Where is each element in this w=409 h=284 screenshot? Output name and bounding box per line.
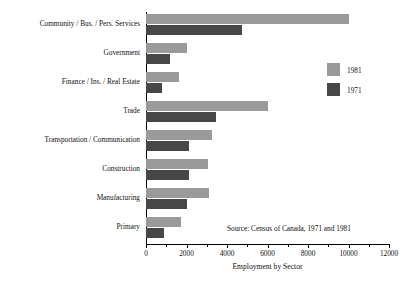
category-label: Primary bbox=[116, 222, 140, 231]
x-tick bbox=[268, 244, 269, 248]
employment-by-sector-chart: Community / Bus. / Pers. ServicesGovernm… bbox=[0, 0, 409, 284]
x-minor-tick bbox=[166, 244, 167, 247]
x-minor-tick bbox=[328, 244, 329, 247]
bar-group bbox=[146, 128, 389, 157]
x-axis-ticks: 020004000600080001000012000 bbox=[146, 244, 389, 262]
bar-1971[interactable] bbox=[146, 228, 164, 238]
x-tick bbox=[349, 244, 350, 248]
bar-group bbox=[146, 12, 389, 41]
bar-1981[interactable] bbox=[146, 130, 212, 140]
x-tick bbox=[146, 244, 147, 248]
bar-1981[interactable] bbox=[146, 217, 181, 227]
x-tick-label: 8000 bbox=[301, 249, 316, 258]
bar-1981[interactable] bbox=[146, 188, 209, 198]
category-label: Transportation / Communication bbox=[45, 135, 140, 144]
x-minor-tick bbox=[247, 244, 248, 247]
bar-group bbox=[146, 99, 389, 128]
plot-area bbox=[146, 12, 389, 244]
source-note: Source: Census of Canada, 1971 and 1981 bbox=[227, 224, 351, 233]
bar-1981[interactable] bbox=[146, 72, 179, 82]
bar-1971[interactable] bbox=[146, 54, 170, 64]
x-tick-label: 2000 bbox=[179, 249, 194, 258]
legend-swatch-1971 bbox=[327, 83, 340, 96]
x-axis-title: Employment by Sector bbox=[146, 262, 389, 272]
bar-group bbox=[146, 157, 389, 186]
bar-1971[interactable] bbox=[146, 170, 189, 180]
x-minor-tick bbox=[369, 244, 370, 247]
x-tick bbox=[308, 244, 309, 248]
x-minor-tick bbox=[288, 244, 289, 247]
x-tick bbox=[389, 244, 390, 248]
bar-1971[interactable] bbox=[146, 199, 187, 209]
category-label: Trade bbox=[123, 106, 140, 115]
legend-item-1981[interactable]: 1981 bbox=[327, 63, 397, 83]
x-tick-label: 0 bbox=[144, 249, 148, 258]
x-minor-tick bbox=[207, 244, 208, 247]
bar-1971[interactable] bbox=[146, 112, 216, 122]
bar-group bbox=[146, 186, 389, 215]
legend-swatch-1981 bbox=[327, 63, 340, 76]
legend-item-1971[interactable]: 1971 bbox=[327, 83, 397, 103]
category-label: Finance / Ins. / Real Estate bbox=[62, 77, 140, 86]
bar-1971[interactable] bbox=[146, 25, 242, 35]
x-tick bbox=[187, 244, 188, 248]
bar-1981[interactable] bbox=[146, 159, 208, 169]
x-tick-label: 6000 bbox=[260, 249, 275, 258]
x-tick bbox=[227, 244, 228, 248]
bar-1981[interactable] bbox=[146, 43, 187, 53]
legend: 1981 1971 bbox=[327, 63, 397, 103]
category-label: Government bbox=[104, 48, 140, 57]
category-label: Construction bbox=[102, 164, 140, 173]
bar-1971[interactable] bbox=[146, 141, 189, 151]
bar-1971[interactable] bbox=[146, 83, 162, 93]
x-tick-label: 4000 bbox=[220, 249, 235, 258]
bar-1981[interactable] bbox=[146, 14, 349, 24]
bar-1981[interactable] bbox=[146, 101, 268, 111]
legend-label-1971: 1971 bbox=[347, 86, 362, 95]
x-tick-label: 10000 bbox=[339, 249, 357, 258]
category-label-column: Community / Bus. / Pers. ServicesGovernm… bbox=[0, 12, 143, 244]
legend-label-1981: 1981 bbox=[347, 66, 362, 75]
category-label: Community / Bus. / Pers. Services bbox=[40, 19, 140, 28]
x-tick-label: 12000 bbox=[380, 249, 398, 258]
category-label: Manufacturing bbox=[97, 193, 140, 202]
